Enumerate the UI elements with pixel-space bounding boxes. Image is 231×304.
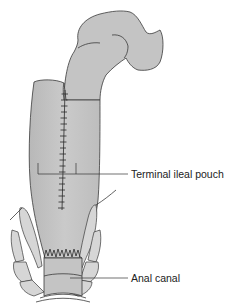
label-anal-canal: Anal canal (131, 272, 180, 284)
label-terminal-ileal-pouch: Terminal ileal pouch (131, 168, 224, 180)
ileum-loop (64, 11, 163, 100)
ileal-pouch-diagram: Terminal ileal pouch Anal canal (0, 0, 231, 304)
